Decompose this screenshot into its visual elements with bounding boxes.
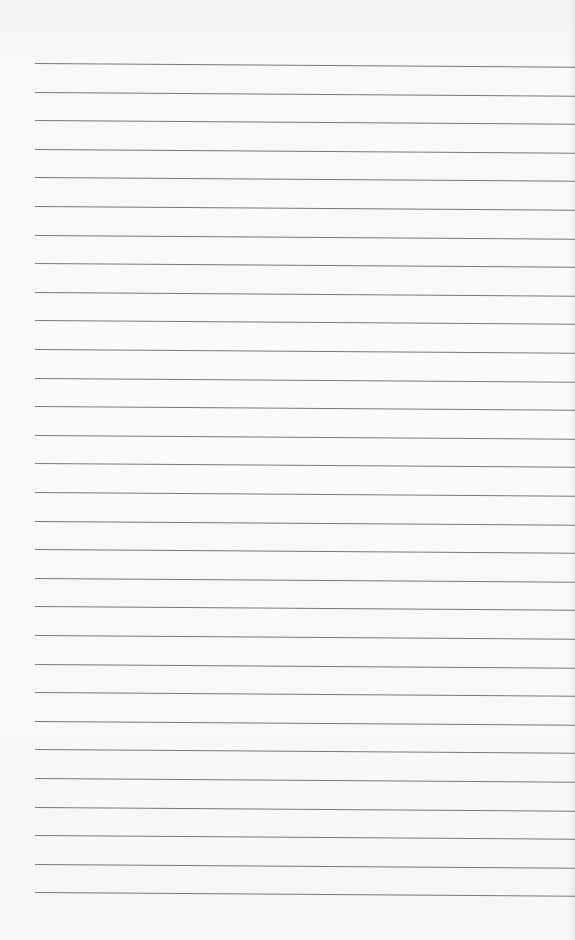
ruled-line: [35, 378, 575, 383]
ruled-line: [35, 235, 575, 240]
ruled-line: [35, 177, 575, 182]
ruled-line: [35, 692, 575, 697]
ruled-line: [35, 778, 575, 783]
ruled-line: [35, 120, 575, 125]
ruled-line: [35, 206, 575, 211]
ruled-line: [35, 406, 575, 411]
ruled-line: [35, 549, 575, 554]
ruled-line: [35, 892, 575, 897]
ruled-line: [35, 435, 575, 440]
ruled-line: [35, 320, 575, 325]
ruled-line: [35, 807, 575, 812]
ruled-line: [35, 749, 575, 754]
ruled-line: [35, 521, 575, 526]
ruled-line: [35, 463, 575, 468]
ruled-line: [35, 263, 575, 268]
ruled-line: [35, 835, 575, 840]
ruled-line: [35, 349, 575, 354]
ruled-line: [35, 63, 575, 68]
ruled-line: [35, 664, 575, 669]
ruled-line: [35, 292, 575, 297]
ruled-line: [35, 606, 575, 611]
ruled-line: [35, 149, 575, 154]
lined-paper-page: [0, 0, 575, 940]
ruled-line: [35, 721, 575, 726]
ruled-line: [35, 492, 575, 497]
ruled-line: [35, 578, 575, 583]
ruled-line: [35, 864, 575, 869]
ruled-line: [35, 92, 575, 97]
ruled-line: [35, 635, 575, 640]
